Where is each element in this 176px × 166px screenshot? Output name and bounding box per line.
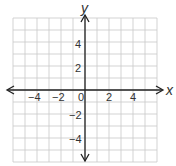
x-tick-neg4: −4 (28, 91, 41, 103)
y-axis-label: y (80, 0, 89, 16)
x-tick-neg2: −2 (52, 91, 65, 103)
y-tick-4: 4 (75, 38, 81, 50)
origin-label: 0 (78, 91, 84, 103)
y-tick-neg4: −4 (69, 133, 82, 145)
coordinate-plane: x y 0 −4 −2 2 4 4 2 −2 −4 (0, 0, 176, 166)
x-tick-4: 4 (130, 91, 136, 103)
y-axis (81, 15, 89, 161)
x-tick-2: 2 (106, 91, 112, 103)
y-tick-neg2: −2 (69, 109, 82, 121)
y-tick-2: 2 (75, 62, 81, 74)
x-axis-label: x (165, 82, 174, 98)
